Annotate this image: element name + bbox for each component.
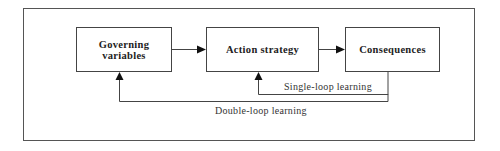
consequences-node: Consequences <box>345 27 440 72</box>
action-strategy-node: Action strategy <box>206 27 319 72</box>
action-strategy-label: Action strategy <box>226 44 299 55</box>
consequences-label: Consequences <box>359 44 426 55</box>
arrowhead-icon <box>336 46 345 54</box>
arrowhead-icon <box>116 72 124 80</box>
double-loop-learning-label: Double-loop learning <box>215 105 307 116</box>
connector-lines <box>0 0 500 151</box>
governing-variables-label-line2: variables <box>99 50 150 61</box>
governing-variables-node: Governing variables <box>76 27 172 72</box>
arrowhead-icon <box>197 46 206 54</box>
arrowhead-icon <box>255 72 263 80</box>
single-loop-learning-label: Single-loop learning <box>284 81 372 92</box>
governing-variables-label-line1: Governing <box>99 39 150 50</box>
